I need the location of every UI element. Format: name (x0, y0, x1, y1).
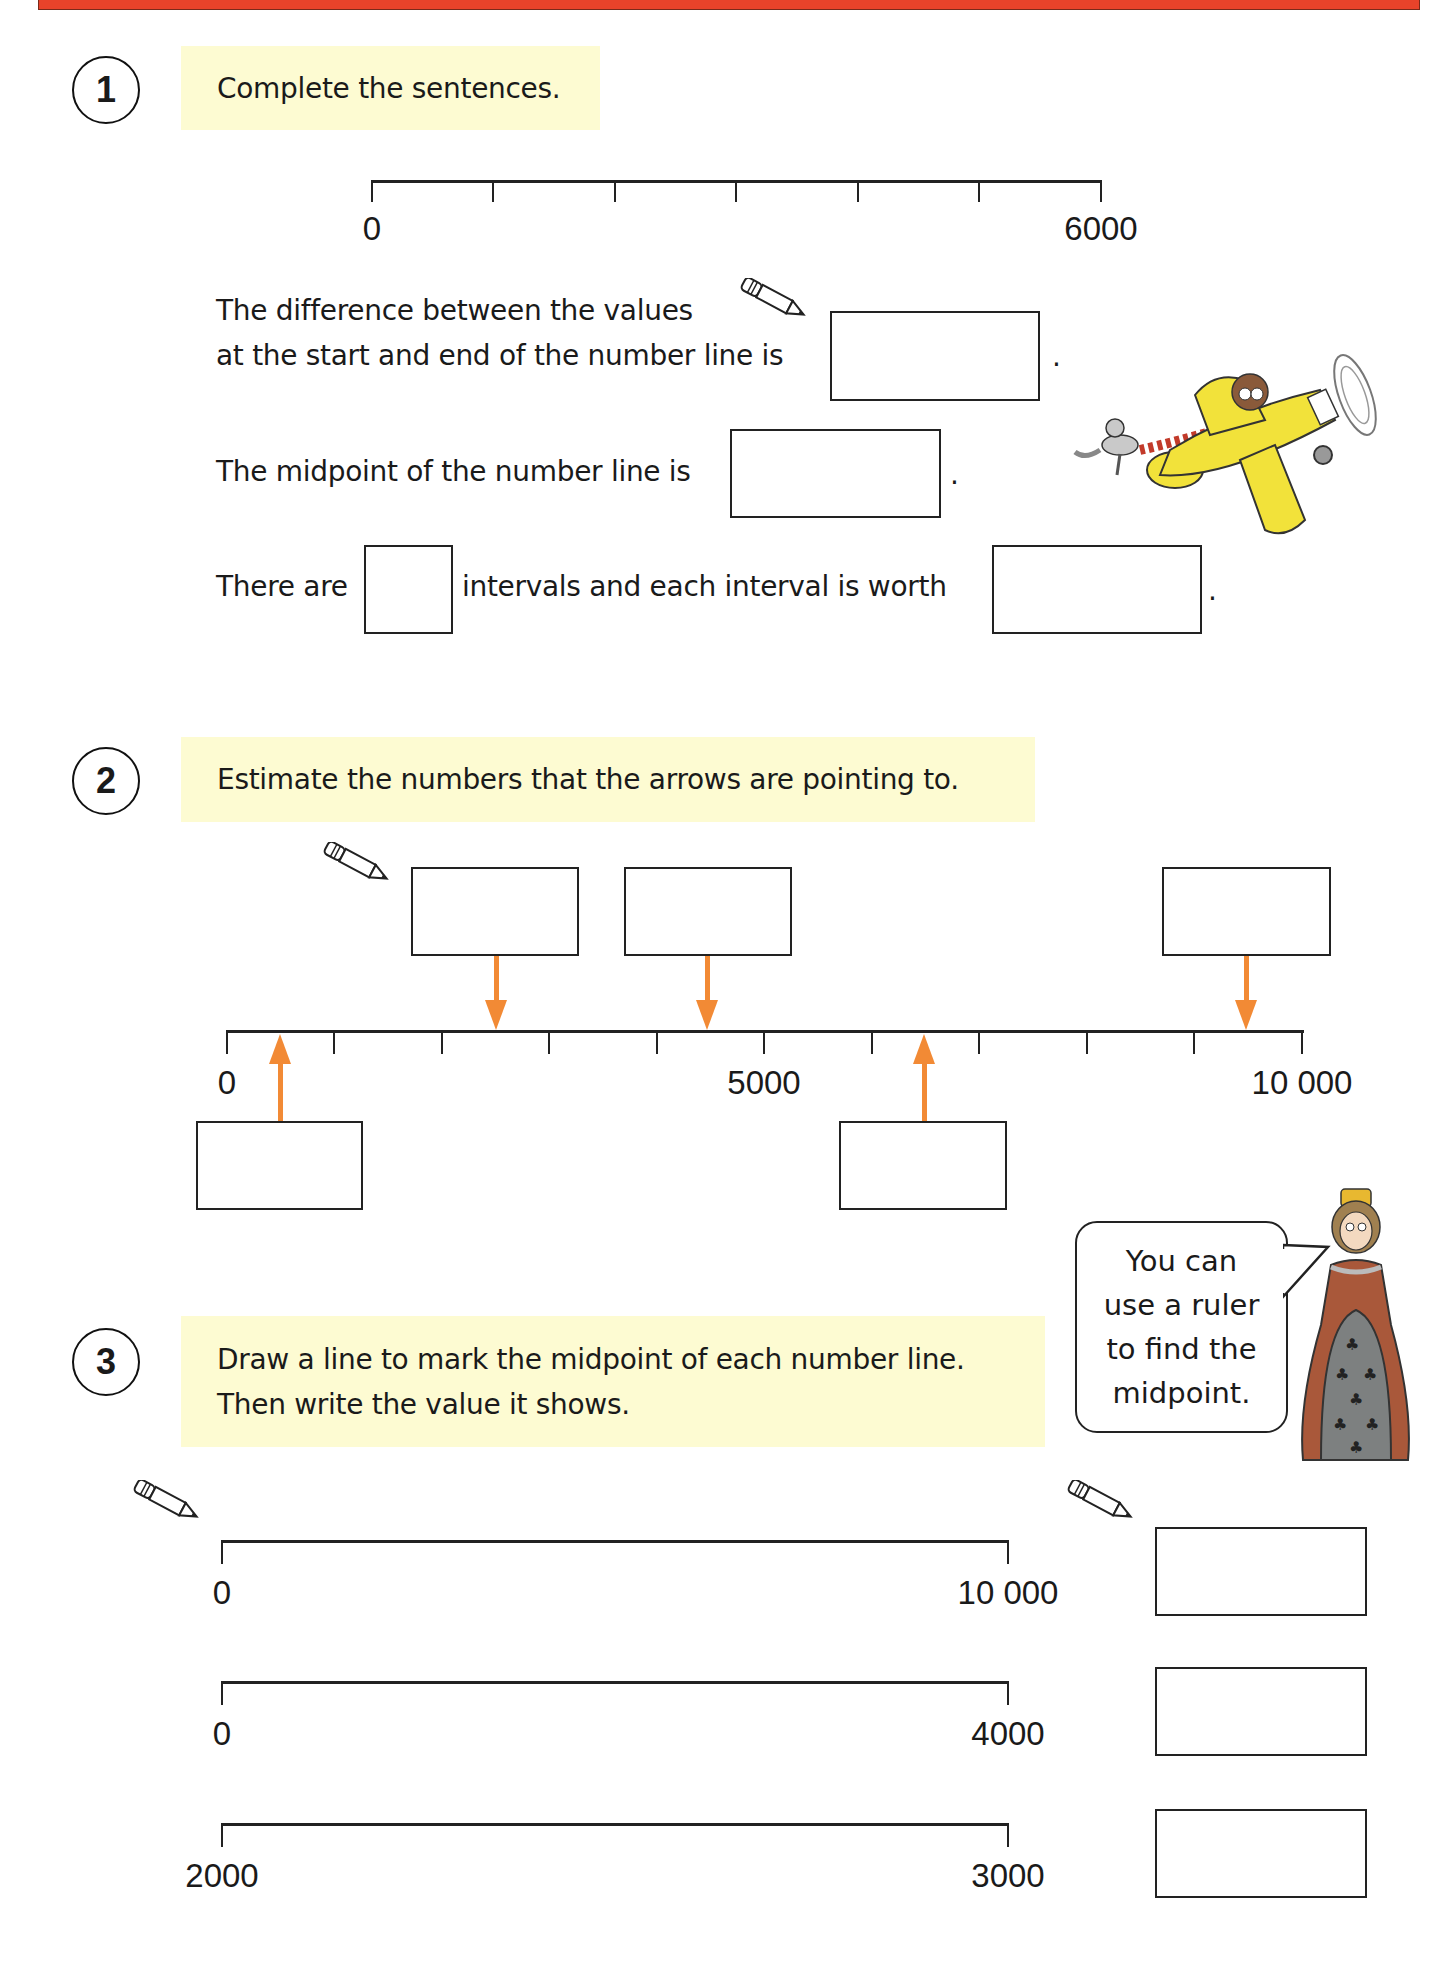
svg-text:♣: ♣ (1349, 1390, 1363, 1409)
sentence-1-line-2: at the start and end of the number line … (216, 339, 783, 372)
arrow-up-shaft (922, 1060, 927, 1122)
answer-box-midpoint-b[interactable] (1155, 1667, 1367, 1756)
arrow-down-shaft (494, 956, 499, 1006)
arrow-up-shaft (278, 1060, 283, 1122)
number-line-start-label: 0 (213, 1574, 231, 1612)
answer-box-arrow-5[interactable] (1162, 867, 1331, 956)
number-line-end-label: 4000 (971, 1715, 1044, 1753)
sentence-3-part-1: There are (216, 570, 348, 603)
header-bar (38, 0, 1420, 10)
number-line-end-label: 3000 (971, 1857, 1044, 1895)
pencil-icon (735, 278, 813, 322)
arrow-down-shaft (1244, 956, 1249, 1006)
svg-text:♣: ♣ (1349, 1438, 1363, 1457)
sentence-3-part-2: intervals and each interval is worth (462, 570, 947, 603)
number-line-bar[interactable] (221, 1823, 1009, 1826)
pencil-icon (128, 1480, 206, 1524)
arrow-down-icon (1235, 1000, 1257, 1030)
sentence-1-line-1: The difference between the values (216, 294, 693, 327)
instruction-box-2: Estimate the numbers that the arrows are… (181, 737, 1035, 822)
tick (1007, 1681, 1009, 1705)
answer-box-arrow-2[interactable] (411, 867, 579, 956)
tick (548, 1030, 550, 1054)
answer-box-midpoint[interactable] (730, 429, 941, 518)
question-number-2: 2 (72, 747, 140, 815)
number-line-bar (226, 1030, 1304, 1033)
tick (1100, 180, 1102, 202)
answer-box-midpoint-c[interactable] (1155, 1809, 1367, 1898)
svg-text:♣: ♣ (1365, 1415, 1379, 1434)
pencil-icon (1062, 1480, 1140, 1524)
svg-text:♣: ♣ (1333, 1415, 1347, 1434)
answer-box-midpoint-a[interactable] (1155, 1527, 1367, 1616)
number-line-start-label: 0 (363, 210, 381, 248)
question-number-text: 1 (96, 69, 116, 111)
arrow-down-icon (696, 1000, 718, 1030)
tip-line: use a ruler (1104, 1283, 1260, 1327)
sentence-2: The midpoint of the number line is (216, 455, 691, 488)
number-line-start-label: 0 (218, 1064, 236, 1102)
period: . (950, 458, 959, 491)
instruction-text-line-1: Draw a line to mark the midpoint of each… (217, 1337, 965, 1382)
instruction-text: Estimate the numbers that the arrows are… (217, 757, 959, 802)
answer-box-difference[interactable] (830, 311, 1040, 401)
number-line-bar[interactable] (221, 1681, 1009, 1684)
tick (1007, 1823, 1009, 1847)
answer-box-interval-worth[interactable] (992, 545, 1202, 634)
number-line-end-label: 10 000 (958, 1574, 1059, 1612)
tick (1007, 1540, 1009, 1564)
period: . (1208, 574, 1217, 607)
instruction-text: Complete the sentences. (217, 66, 560, 111)
tick (226, 1030, 228, 1054)
tick (857, 180, 859, 202)
tick (614, 180, 616, 202)
answer-box-arrow-4[interactable] (839, 1121, 1007, 1210)
number-line-end-label: 6000 (1064, 210, 1137, 248)
tick (1086, 1030, 1088, 1054)
pencil-icon (318, 842, 396, 886)
tick (1301, 1030, 1303, 1054)
question-number-1: 1 (72, 56, 140, 124)
question-number-3: 3 (72, 1328, 140, 1396)
tick (492, 180, 494, 202)
question-number-text: 2 (96, 760, 116, 802)
number-line-end-label: 10 000 (1252, 1064, 1353, 1102)
answer-box-arrow-1[interactable] (196, 1121, 363, 1210)
svg-text:♣: ♣ (1345, 1335, 1359, 1354)
tick (221, 1681, 223, 1705)
svg-text:♣: ♣ (1363, 1365, 1377, 1384)
tick (978, 1030, 980, 1054)
instruction-text-line-2: Then write the value it shows. (217, 1382, 965, 1427)
tick (656, 1030, 658, 1054)
tick (735, 180, 737, 202)
answer-box-intervals[interactable] (364, 545, 453, 634)
answer-box-arrow-3[interactable] (624, 867, 792, 956)
number-line-bar[interactable] (221, 1540, 1009, 1543)
number-line-start-label: 2000 (185, 1857, 258, 1895)
instruction-box-1: Complete the sentences. (181, 46, 600, 130)
instruction-box-3: Draw a line to mark the midpoint of each… (181, 1316, 1045, 1447)
tip-line: midpoint. (1104, 1371, 1260, 1415)
tick (221, 1540, 223, 1564)
number-line-start-label: 0 (213, 1715, 231, 1753)
airplane-pilot-illustration (1065, 350, 1380, 545)
tip-line: You can (1104, 1239, 1260, 1283)
tick (871, 1030, 873, 1054)
tick (763, 1030, 765, 1054)
number-line-mid-label: 5000 (727, 1064, 800, 1102)
tick (978, 180, 980, 202)
question-number-text: 3 (96, 1341, 116, 1383)
svg-text:♣: ♣ (1335, 1365, 1349, 1384)
arrow-down-shaft (705, 956, 710, 1006)
arrow-down-icon (485, 1000, 507, 1030)
tick (371, 180, 373, 202)
period: . (1052, 340, 1061, 373)
tick (1193, 1030, 1195, 1054)
tick (221, 1823, 223, 1847)
tick (441, 1030, 443, 1054)
queen-character-illustration: ♣ ♣ ♣ ♣ ♣ ♣ ♣ (1283, 1185, 1423, 1465)
tip-speech-bubble: You can use a ruler to find the midpoint… (1075, 1221, 1288, 1433)
tick (333, 1030, 335, 1054)
tip-line: to find the (1104, 1327, 1260, 1371)
